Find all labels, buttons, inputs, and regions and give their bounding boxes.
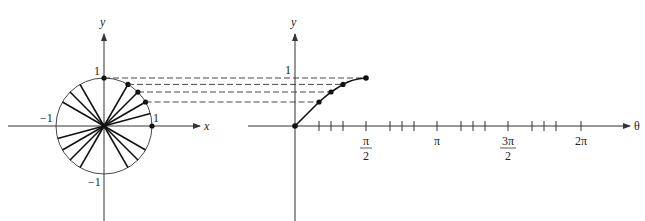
origin-point [101, 123, 106, 128]
tick-label-3pi-over-2-num: 3π [502, 134, 514, 148]
sine-unit-circle-diagram: y x 1 −1 1 −1 [0, 0, 645, 221]
unit-circle-plot: y x 1 −1 1 −1 [8, 15, 210, 221]
tick-label-pi: π [434, 134, 440, 148]
tick-label-y-1: 1 [94, 64, 100, 78]
sine-curve [295, 78, 366, 126]
y-axis-label-right: y [290, 15, 297, 29]
tick-label-x-1: 1 [153, 111, 159, 125]
x-axis-label: x [203, 119, 210, 133]
tick-label-pi-over-2-num: π [363, 134, 369, 148]
tick-label-3pi-over-2-den: 2 [505, 149, 511, 163]
sine-graph-plot: y θ 1 π 2 π 3π 2 2π [248, 15, 640, 221]
tick-label-pi-over-2-den: 2 [363, 149, 369, 163]
tick-label-2pi: 2π [575, 134, 587, 148]
theta-axis-label: θ [634, 119, 640, 133]
y-tick-label-1: 1 [285, 63, 291, 77]
tick-label-y-neg1: −1 [88, 175, 101, 189]
tick-label-x-neg1: −1 [40, 111, 53, 125]
y-axis-label: y [99, 15, 106, 29]
